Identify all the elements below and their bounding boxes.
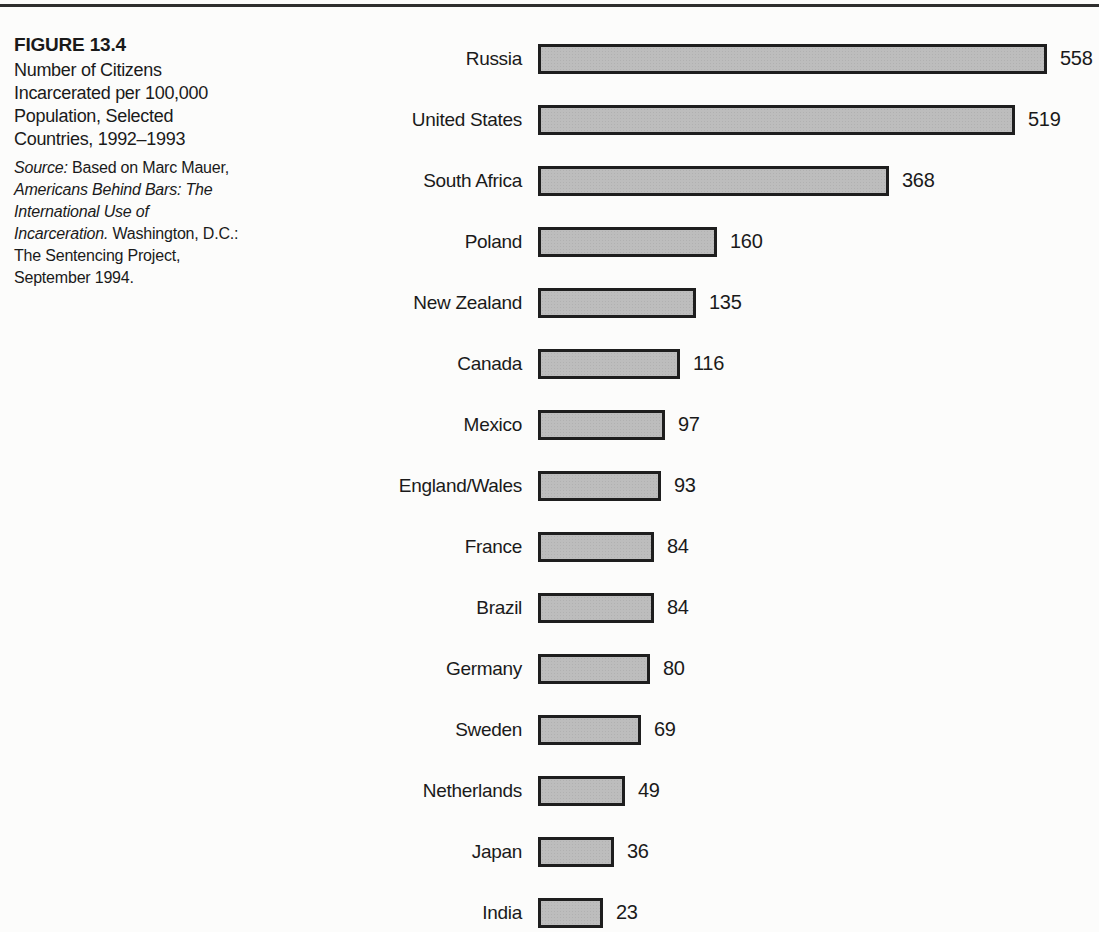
chart-row: United States519 <box>0 89 1099 150</box>
value-label: 116 <box>693 352 724 375</box>
value-label: 97 <box>678 413 700 436</box>
value-label: 558 <box>1060 47 1092 70</box>
category-label: Japan <box>0 841 522 863</box>
category-label: France <box>0 536 522 558</box>
category-label: Poland <box>0 231 522 253</box>
category-label: Sweden <box>0 719 522 741</box>
bar <box>538 471 661 501</box>
category-label: Russia <box>0 48 522 70</box>
bar <box>538 837 614 867</box>
value-label: 135 <box>709 291 741 314</box>
value-label: 84 <box>667 535 689 558</box>
category-label: England/Wales <box>0 475 522 497</box>
category-label: Canada <box>0 353 522 375</box>
value-label: 49 <box>638 779 660 802</box>
top-rule <box>0 4 1099 7</box>
category-label: South Africa <box>0 170 522 192</box>
chart-row: Poland160 <box>0 211 1099 272</box>
category-label: Mexico <box>0 414 522 436</box>
chart-row: Mexico97 <box>0 394 1099 455</box>
value-label: 80 <box>663 657 685 680</box>
value-label: 23 <box>616 901 638 924</box>
category-label: Netherlands <box>0 780 522 802</box>
bar <box>538 44 1047 74</box>
bar <box>538 288 696 318</box>
bar <box>538 532 654 562</box>
chart-row: Russia558 <box>0 28 1099 89</box>
chart-row: Canada116 <box>0 333 1099 394</box>
category-label: India <box>0 902 522 924</box>
value-label: 93 <box>674 474 696 497</box>
bar <box>538 227 717 257</box>
value-label: 84 <box>667 596 689 619</box>
chart-row: Japan36 <box>0 821 1099 882</box>
chart-row: Sweden69 <box>0 699 1099 760</box>
chart-row: Brazil84 <box>0 577 1099 638</box>
value-label: 160 <box>730 230 762 253</box>
chart-row: Netherlands49 <box>0 760 1099 821</box>
chart-row: France84 <box>0 516 1099 577</box>
chart-row: England/Wales93 <box>0 455 1099 516</box>
chart-row: Germany80 <box>0 638 1099 699</box>
value-label: 519 <box>1028 108 1060 131</box>
bar <box>538 166 889 196</box>
value-label: 36 <box>627 840 649 863</box>
bar <box>538 776 625 806</box>
bar <box>538 898 603 928</box>
chart-row: South Africa368 <box>0 150 1099 211</box>
chart-row: India23 <box>0 882 1099 932</box>
value-label: 69 <box>654 718 676 741</box>
chart-row: New Zealand135 <box>0 272 1099 333</box>
bar <box>538 654 650 684</box>
category-label: Brazil <box>0 597 522 619</box>
bar-chart: Russia558United States519South Africa368… <box>0 28 1099 932</box>
bar <box>538 715 641 745</box>
category-label: New Zealand <box>0 292 522 314</box>
bar <box>538 593 654 623</box>
category-label: United States <box>0 109 522 131</box>
bar <box>538 410 665 440</box>
value-label: 368 <box>902 169 934 192</box>
category-label: Germany <box>0 658 522 680</box>
bar <box>538 349 680 379</box>
bar <box>538 105 1015 135</box>
